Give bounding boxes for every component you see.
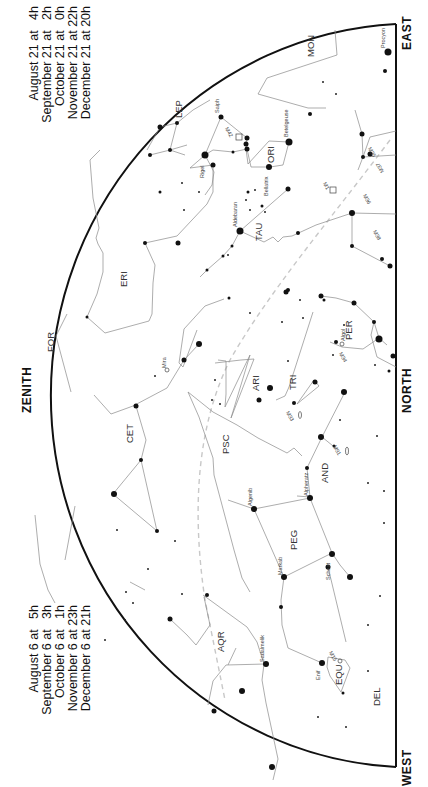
- star-label-rigel: Rigel: [199, 165, 205, 178]
- constellation-label-tau: TAU: [253, 223, 264, 241]
- constellation-label-lep: LEP: [173, 100, 184, 118]
- star-label-sadalmelik: Sadalmelik: [259, 635, 265, 662]
- constellation-label-del: DEL: [371, 688, 382, 706]
- constellation-label-equ: EQU: [333, 664, 344, 685]
- constellation-label-peg: PEG: [288, 530, 299, 550]
- constellation-label-psc: PSC: [220, 434, 231, 454]
- faint-stars: [104, 81, 385, 728]
- direction-west: WEST: [400, 749, 414, 786]
- star-label-bellatrix: Bellatrix: [263, 176, 269, 196]
- direction-east: EAST: [400, 16, 414, 50]
- constellation-label-cet: CET: [124, 424, 135, 443]
- star-label-alpheratz: Alpheratz: [303, 473, 309, 496]
- direction-zenith: ZENITH: [20, 367, 34, 413]
- star-label-aldebaran: Aldebaran: [232, 202, 238, 227]
- star-label-enif: Enif: [315, 671, 321, 680]
- star-label-mira: Mira: [161, 357, 167, 368]
- constellation-label-for: FOR: [45, 332, 56, 352]
- star-label-algol: Algol: [340, 329, 346, 341]
- star-label-procyon: Procyon: [380, 28, 386, 48]
- star-label-algenib: Algenib: [247, 488, 253, 506]
- sky-dome-arc: [51, 24, 396, 767]
- constellation-label-aqr: AQR: [215, 631, 226, 652]
- deep-sky-markers: [165, 134, 349, 663]
- stars: [86, 49, 396, 771]
- star-label-scheat: Scheat: [325, 563, 331, 580]
- constellation-label-mon: MON: [305, 35, 316, 57]
- star-label-markab: Markab: [277, 557, 283, 575]
- constellation-label-tri: TRI: [287, 375, 298, 390]
- legend-left: August 6 at 5h September 6 at 3h October…: [28, 605, 93, 785]
- constellation-label-ari: ARI: [250, 375, 261, 391]
- star-label-betelgeuse: Betelgeuse: [283, 109, 289, 137]
- constellation-label-and: AND: [319, 463, 330, 483]
- star-label-saiph: Saiph: [214, 99, 220, 113]
- direction-north: NORTH: [400, 368, 414, 413]
- legend-left-line: December 6 at 21h: [80, 605, 93, 785]
- legend-right: August 21 at 4h September 21 at 2h Octob…: [28, 6, 93, 186]
- constellation-label-ori: ORI: [265, 146, 276, 163]
- constellation-label-eri: ERI: [118, 271, 129, 287]
- legend-right-line: December 21 at 20h: [80, 6, 93, 186]
